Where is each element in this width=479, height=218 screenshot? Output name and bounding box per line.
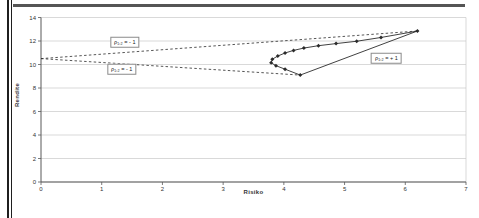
y-tick-label: 12: [29, 38, 36, 44]
y-axis-title: Rendite: [14, 83, 20, 107]
chart-svg: 0246810121401234567: [0, 0, 479, 218]
data-point-marker: [283, 51, 287, 55]
y-tick-label: 0: [33, 179, 37, 185]
annotation-rho-plus-1-label: ρ₁,₂ = + 1: [371, 53, 402, 64]
data-point-marker: [355, 39, 359, 43]
y-tick-label: 14: [29, 15, 36, 21]
x-axis-title: Risiko: [41, 189, 466, 195]
series-rho-minus-1-lower: [41, 59, 300, 75]
data-point-marker: [269, 61, 273, 65]
document-page: 0246810121401234567 Rendite Risiko ρ₁,₂ …: [0, 0, 479, 218]
data-point-marker: [270, 57, 274, 61]
data-point-marker: [415, 29, 419, 33]
data-point-marker: [302, 46, 306, 50]
data-point-marker: [276, 54, 280, 58]
annotation-rho-minus-1-upper-label: ρ₁,₂ = - 1: [110, 37, 139, 48]
y-tick-label: 4: [33, 132, 37, 138]
data-point-marker: [298, 73, 302, 77]
y-tick-label: 8: [33, 85, 37, 91]
data-point-marker: [316, 44, 320, 48]
y-tick-label: 6: [33, 109, 37, 115]
annotation-rho-minus-1-lower-label: ρ₁,₂ = - 1: [107, 64, 136, 75]
data-point-marker: [292, 48, 296, 52]
data-point-marker: [283, 67, 287, 71]
y-tick-label: 10: [29, 62, 36, 68]
data-point-marker: [379, 35, 383, 39]
y-tick-label: 2: [33, 156, 37, 162]
data-point-marker: [334, 42, 338, 46]
series-rho-minus-1-upper: [41, 31, 417, 59]
chart-area: 0246810121401234567 Rendite Risiko ρ₁,₂ …: [0, 0, 479, 218]
